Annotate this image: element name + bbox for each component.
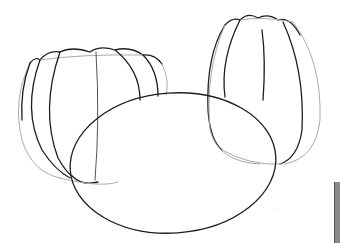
tall-pumpkin (208, 15, 320, 164)
wide-pumpkin (18, 48, 167, 184)
speck (276, 209, 278, 211)
edge-frame (334, 182, 340, 243)
